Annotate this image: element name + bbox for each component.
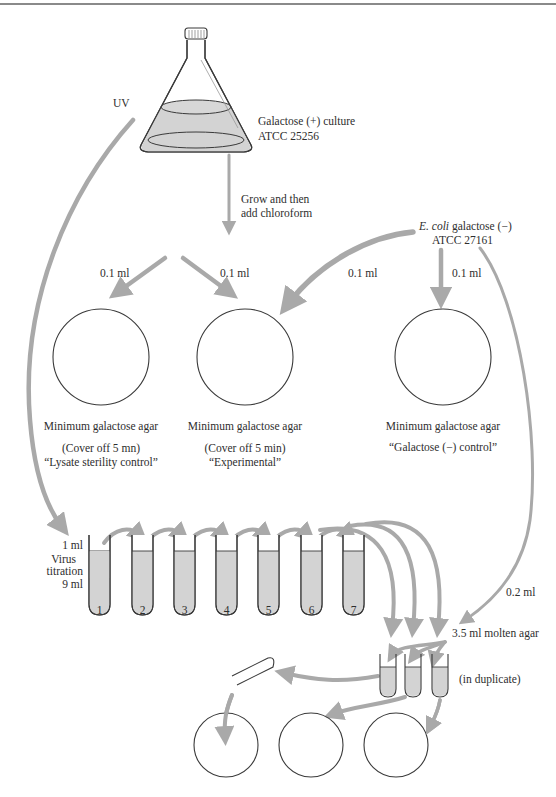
tube-number-1: 1 [89, 603, 110, 617]
plate2-medium: Minimum galactose agar [180, 419, 310, 433]
plate1-medium: Minimum galactose agar [36, 419, 166, 433]
tube-number-2: 2 [132, 603, 153, 617]
volume-plate2-lysate: 0.1 ml [220, 266, 249, 280]
plate-lysate-sterility [53, 309, 149, 405]
plate3-medium: Minimum galactose agar [378, 419, 508, 433]
plate1-name: “Lysate sterility control” [36, 455, 166, 469]
to-plate-b-arrow [333, 697, 405, 714]
final-plate-b [279, 713, 343, 777]
culture-label-line1: Galactose (+) culture [258, 114, 355, 128]
titration-1ml: 1 ml [30, 538, 83, 552]
grow-label-line2: add chloroform [241, 206, 312, 220]
tube-number-4: 4 [216, 603, 237, 617]
molten-agar-label: 3.5 ml molten agar [452, 626, 539, 640]
ecoli-label-line2: ATCC 27161 [432, 233, 493, 247]
tube-number-7: 7 [343, 603, 364, 617]
plate2-note: (Cover off 5 min) [180, 441, 310, 455]
tube7-to-agar-arrow [366, 522, 440, 628]
volume-to-agar: 0.2 ml [506, 585, 535, 599]
tube-number-6: 6 [301, 603, 322, 617]
plate-galactose-control [395, 309, 491, 405]
culture-label-line2: ATCC 25256 [258, 129, 319, 143]
volume-plate2-ecoli: 0.1 ml [348, 266, 377, 280]
final-plate-c [364, 713, 428, 777]
plate2-name: “Experimental” [180, 455, 310, 469]
duplicate-note: (in duplicate) [459, 672, 521, 686]
plate3-name: “Galactose (−) control” [378, 440, 508, 454]
grow-label-line1: Grow and then [241, 192, 309, 206]
titration-titration: titration [30, 564, 83, 578]
plate1-note: (Cover off 5 mn) [36, 441, 166, 455]
titration-9ml: 9 ml [30, 577, 83, 591]
ecoli-rest: galactose (−) [449, 220, 512, 232]
uv-label: UV [113, 96, 130, 110]
tube-number-3: 3 [174, 603, 195, 617]
ecoli-to-agar-arrow [465, 248, 533, 620]
ecoli-label-line1: E. coli galactose (−) [419, 219, 512, 233]
agar-tubes [380, 654, 448, 697]
ecoli-species: E. coli [419, 220, 449, 232]
tube-number-5: 5 [258, 603, 279, 617]
volume-plate3: 0.1 ml [452, 266, 481, 280]
plate-experimental [197, 309, 293, 405]
pouring-tube-icon [232, 658, 274, 685]
culture-flask-icon [140, 28, 251, 152]
to-pipette-arrow [284, 673, 378, 680]
volume-plate1: 0.1 ml [100, 266, 129, 280]
